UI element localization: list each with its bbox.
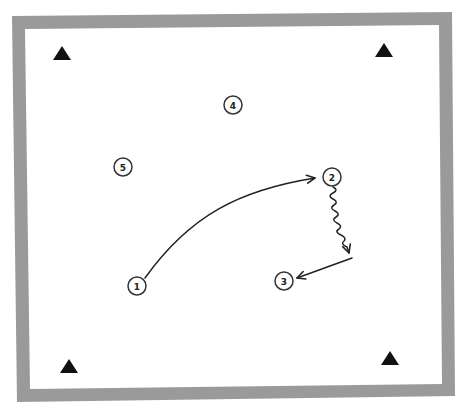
dribble-arrow-from-2 [330, 187, 349, 253]
cone-icon [60, 359, 78, 373]
player-5: 5 [114, 158, 132, 176]
player-label: 2 [329, 173, 335, 183]
player-3: 3 [275, 272, 293, 290]
field-border [12, 12, 455, 402]
player-1: 1 [128, 277, 146, 295]
cone-icon [375, 43, 393, 57]
player-label: 4 [230, 101, 236, 111]
movements [145, 178, 352, 278]
pass-arrow-to-3 [297, 258, 352, 278]
player-2: 2 [323, 168, 341, 186]
player-label: 3 [281, 277, 287, 287]
players: 1 2 3 4 5 [114, 96, 341, 295]
player-label: 5 [120, 163, 126, 173]
player-label: 1 [134, 282, 140, 292]
cone-icon [381, 351, 399, 365]
drill-diagram: 1 2 3 4 5 [0, 0, 468, 412]
player-4: 4 [224, 96, 242, 114]
cones [53, 43, 399, 373]
pass-arrow-1-to-2 [145, 178, 315, 278]
cone-icon [53, 46, 71, 60]
